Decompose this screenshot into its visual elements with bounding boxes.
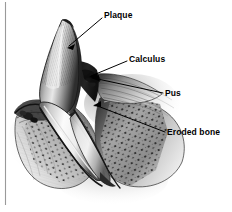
callout-label-plaque: Plaque: [104, 10, 132, 20]
callout-label-eroded-bone: Eroded bone: [167, 127, 220, 137]
illustration-canvas: [0, 0, 232, 212]
callout-label-pus: Pus: [165, 88, 181, 98]
callout-label-calculus: Calculus: [129, 54, 165, 64]
periodontal-disease-figure: Plaque Calculus Pus Eroded bone: [0, 0, 232, 212]
